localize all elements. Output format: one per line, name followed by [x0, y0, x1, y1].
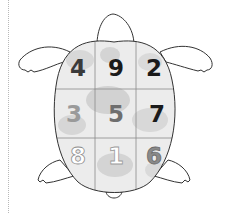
cell-r2c3: 7: [149, 101, 165, 127]
cell-r2c1: 3: [66, 101, 82, 127]
cell-r1c3: 2: [146, 55, 162, 81]
cell-r3c3: 6: [146, 143, 162, 169]
cell-r1c2: 9: [108, 55, 124, 81]
cell-r3c2: 1: [108, 143, 124, 169]
cell-r2c2: 5: [108, 101, 124, 127]
turtle-illustration: 4 9 2 3 5 7 8 1 6: [0, 0, 228, 213]
cell-r3c1: 8: [70, 143, 86, 169]
cell-r1c1: 4: [70, 55, 86, 81]
turtle-head: [97, 14, 134, 45]
